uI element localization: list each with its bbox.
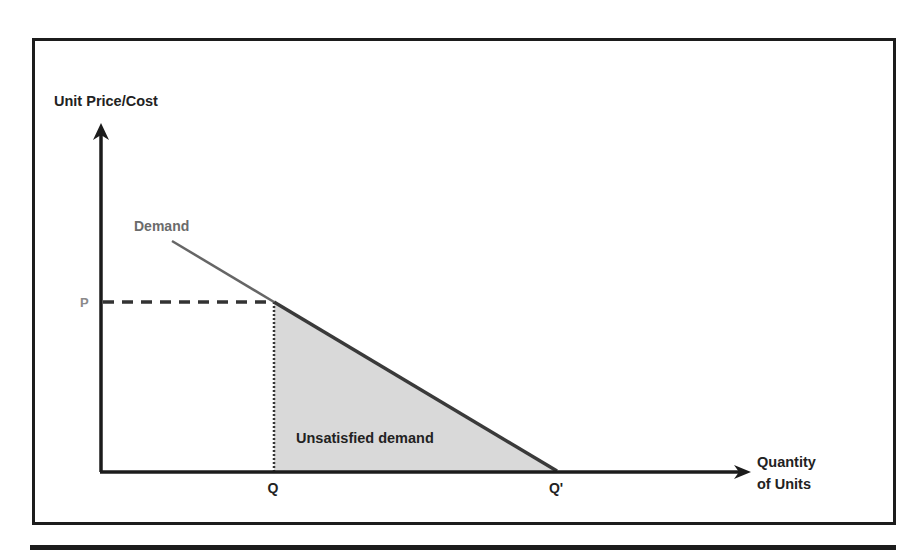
x-axis-label-line2: of Units	[757, 476, 811, 492]
demand-diagram: Unit Price/Cost Demand P Unsatisfied dem…	[0, 0, 920, 559]
quantity-label: Q	[268, 480, 279, 496]
quantity-prime-label: Q'	[549, 480, 563, 496]
demand-line	[172, 241, 274, 302]
y-axis-label: Unit Price/Cost	[54, 93, 158, 109]
bottom-rule-divider	[30, 545, 896, 550]
x-axis-label-line1: Quantity	[757, 454, 816, 470]
price-label: P	[80, 295, 89, 310]
demand-label: Demand	[134, 218, 189, 234]
region-label: Unsatisfied demand	[296, 430, 434, 446]
